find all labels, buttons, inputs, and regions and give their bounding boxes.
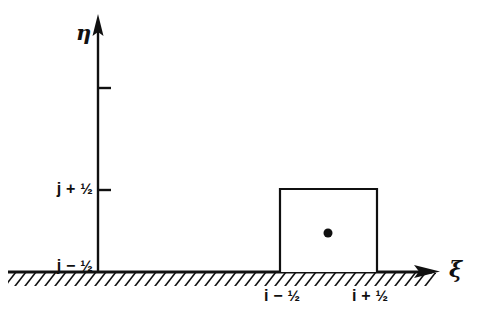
diagram-canvas [0, 0, 479, 333]
x-tick-i-plus-fraction: ½ [375, 287, 388, 304]
y-tick-j-plus-fraction: ½ [80, 180, 93, 197]
y-tick-label-j-plus-half: j + ½ [57, 181, 93, 197]
x-tick-label-i-plus-half: i + ½ [352, 288, 388, 304]
eta-axis-label: η [76, 22, 91, 43]
y-tick-label-j-minus-half: j − ½ [57, 258, 93, 274]
x-tick-label-i-minus-half: i − ½ [264, 288, 300, 304]
x-tick-i-plus-main: i + [352, 287, 375, 304]
cell-center-node [324, 229, 333, 238]
xi-axis-label: ξ [449, 258, 462, 280]
x-tick-i-minus-fraction: ½ [287, 287, 300, 304]
y-tick-j-plus-main: j + [57, 180, 80, 197]
staggered-grid-cell-diagram: η ξ j + ½ j − ½ i − ½ i + ½ [0, 0, 479, 333]
y-tick-j-minus-fraction: ½ [80, 257, 93, 274]
y-tick-j-minus-main: j − [57, 257, 80, 274]
x-tick-i-minus-main: i − [264, 287, 287, 304]
